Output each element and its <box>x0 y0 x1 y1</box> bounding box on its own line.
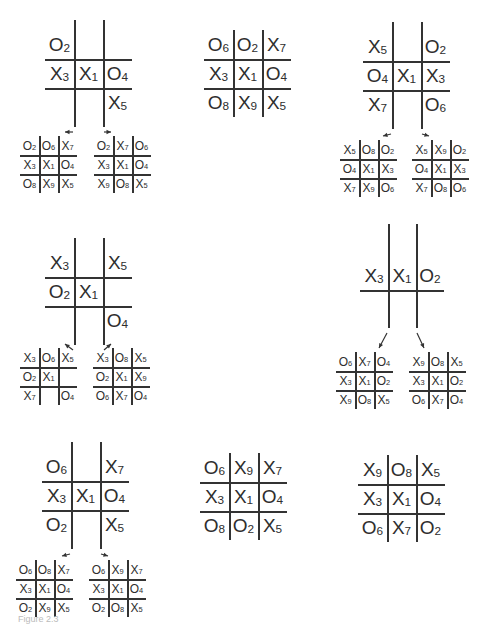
board-cell: X9 <box>358 455 387 484</box>
board-cell: X1 <box>229 482 258 511</box>
board-cell: O6 <box>358 513 387 542</box>
figure-caption: Figure 2.3 <box>18 614 59 624</box>
board-cell: O4 <box>416 484 445 513</box>
board-cell: O6 <box>200 453 229 482</box>
board-cell: O8 <box>200 511 229 540</box>
board-cell: X5 <box>258 511 287 540</box>
board-cell: X1 <box>387 484 416 513</box>
board-cell: X5 <box>416 455 445 484</box>
board-cell: O4 <box>258 482 287 511</box>
board-cell: X9 <box>229 453 258 482</box>
board-cell: X7 <box>387 513 416 542</box>
board-cell: X7 <box>258 453 287 482</box>
board-cell: O2 <box>229 511 258 540</box>
board-cell: X3 <box>200 482 229 511</box>
board-cell: O2 <box>416 513 445 542</box>
board-cell: O8 <box>387 455 416 484</box>
board-cell: X3 <box>358 484 387 513</box>
